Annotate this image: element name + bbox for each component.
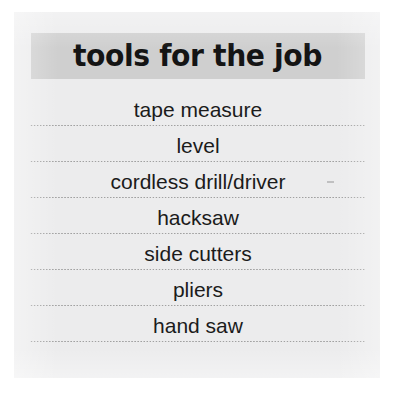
dotted-separator: [30, 304, 366, 307]
list-item: hand saw: [30, 311, 366, 347]
dotted-separator: [30, 340, 366, 343]
list-item-label: side cutters: [30, 241, 366, 267]
tools-list: tape measure level cordless drill/driver…: [30, 95, 366, 347]
tools-card: tools for the job tape measure level cor…: [14, 12, 380, 378]
dotted-separator: [30, 232, 366, 235]
header-banner: tools for the job: [31, 33, 365, 79]
list-item-label: cordless drill/driver: [30, 169, 366, 195]
list-item: level: [30, 131, 366, 167]
list-item: hacksaw: [30, 203, 366, 239]
dotted-separator: [30, 124, 366, 127]
list-item: side cutters: [30, 239, 366, 275]
list-item-label: hand saw: [30, 313, 366, 339]
list-item-label: tape measure: [30, 97, 366, 123]
list-item: cordless drill/driver: [30, 167, 366, 203]
list-item-label: hacksaw: [30, 205, 366, 231]
document-page: tools for the job tape measure level cor…: [0, 0, 394, 401]
list-item-label: level: [30, 133, 366, 159]
list-item-label: pliers: [30, 277, 366, 303]
scan-artifact: [327, 181, 334, 183]
dotted-separator: [30, 196, 366, 199]
dotted-separator: [30, 268, 366, 271]
list-item: pliers: [30, 275, 366, 311]
list-item: tape measure: [30, 95, 366, 131]
page-title: tools for the job: [73, 41, 322, 71]
dotted-separator: [30, 160, 366, 163]
